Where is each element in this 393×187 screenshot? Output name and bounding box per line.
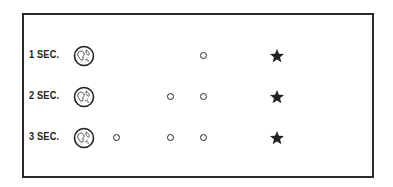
- small-ring-icon: [113, 134, 120, 141]
- diagram-row: 1 SEC.: [0, 43, 393, 69]
- small-ring-icon: [167, 93, 174, 100]
- small-ring-icon: [167, 134, 174, 141]
- star-icon: [269, 89, 285, 105]
- small-ring-icon: [200, 93, 207, 100]
- earth-globe-icon: [73, 86, 95, 108]
- star-icon: [269, 130, 285, 146]
- small-ring-icon: [200, 52, 207, 59]
- diagram-row: 2 SEC.: [0, 84, 393, 110]
- diagram-row: 3 SEC.: [0, 125, 393, 151]
- time-label: 1 SEC.: [29, 49, 59, 60]
- small-ring-icon: [200, 134, 207, 141]
- time-label: 3 SEC.: [29, 131, 59, 142]
- earth-globe-icon: [73, 127, 95, 149]
- earth-globe-icon: [73, 45, 95, 67]
- time-label: 2 SEC.: [29, 90, 59, 101]
- star-icon: [269, 48, 285, 64]
